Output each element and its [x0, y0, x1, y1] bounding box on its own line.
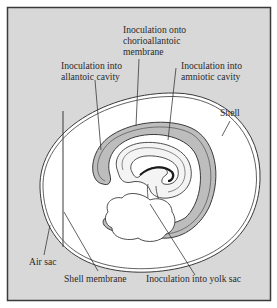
egg-inoculation-diagram: Inoculation onto chorioallantoic membran… — [0, 0, 277, 308]
label-allantoic: Inoculation into allantoic cavity — [61, 60, 122, 82]
label-shell-membrane: Shell membrane — [64, 273, 127, 284]
label-line: amniotic cavity — [181, 71, 242, 82]
label-air-sac: Air sac — [29, 256, 56, 267]
label-amniotic: Inoculation into amniotic cavity — [181, 60, 242, 82]
label-line: allantoic cavity — [61, 71, 122, 82]
label-line: membrane — [123, 46, 186, 57]
label-line: Inoculation into — [61, 60, 122, 71]
label-line: chorioallantoic — [123, 35, 186, 46]
label-line: Inoculation into — [181, 60, 242, 71]
label-line: Inoculation onto — [123, 24, 186, 35]
label-shell: Shell — [220, 107, 240, 118]
label-yolk-sac: Inoculation into yolk sac — [146, 273, 241, 284]
yolk-sac — [105, 194, 175, 242]
label-chorioallantoic: Inoculation onto chorioallantoic membran… — [123, 24, 186, 57]
